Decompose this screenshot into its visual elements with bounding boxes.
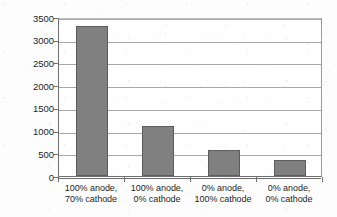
x-axis-tick-mark: [190, 177, 191, 182]
y-axis-tick-label: 1000: [18, 126, 54, 137]
x-axis-category-label-line: 0% anode,: [256, 183, 322, 194]
x-axis-category-labels: 100% anode,70% cathode100% anode,0% cath…: [58, 183, 322, 213]
x-axis-category-label: 0% anode,100% cathode: [190, 183, 256, 206]
y-axis-tick-label: 3000: [18, 35, 54, 46]
x-axis-category-label: 0% anode,0% cathode: [256, 183, 322, 206]
x-axis-tick-mark: [322, 177, 323, 182]
y-axis-tick-labels: 3500300025002000150010005000: [18, 12, 54, 183]
x-axis-category-label-line: 0% cathode: [256, 194, 322, 205]
y-axis-tick-label: 2000: [18, 81, 54, 92]
x-axis-category-label: 100% anode,0% cathode: [124, 183, 190, 206]
bars-layer: [59, 19, 321, 176]
y-axis-tick-label: 3500: [18, 13, 54, 24]
bar-chart-figure: Operating hours 350030002500200015001000…: [0, 0, 337, 217]
x-axis-tick-mark: [256, 177, 257, 182]
plot-area: [58, 18, 322, 177]
x-axis-tick-mark: [58, 177, 59, 182]
bar: [274, 160, 306, 176]
y-axis-tick-label: 1500: [18, 103, 54, 114]
x-axis-category-label-line: 100% anode,: [58, 183, 124, 194]
y-axis-tick-label: 2500: [18, 58, 54, 69]
x-axis-tick-mark: [124, 177, 125, 182]
x-axis-category-label-line: 100% cathode: [190, 194, 256, 205]
y-axis-tick-label: 500: [18, 149, 54, 160]
x-axis-category-label-line: 0% cathode: [124, 194, 190, 205]
bar: [208, 150, 240, 176]
y-axis-tick-label: 0: [18, 172, 54, 183]
bar: [76, 26, 108, 176]
x-axis-category-label: 100% anode,70% cathode: [58, 183, 124, 206]
x-axis-category-label-line: 100% anode,: [124, 183, 190, 194]
x-axis-category-label-line: 0% anode,: [190, 183, 256, 194]
x-axis-category-label-line: 70% cathode: [58, 194, 124, 205]
bar: [142, 126, 174, 176]
